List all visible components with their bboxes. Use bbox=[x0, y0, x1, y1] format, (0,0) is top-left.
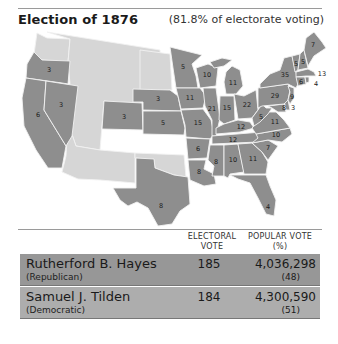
table-top-rule bbox=[18, 229, 322, 230]
ev-label-wisconsin: 10 bbox=[203, 71, 211, 79]
page-title: Election of 1876 bbox=[18, 12, 138, 27]
ev-label-minnesota: 5 bbox=[181, 63, 185, 71]
ev-label-west-virginia: 5 bbox=[259, 113, 263, 121]
ev-label-vermont: 5 bbox=[294, 60, 298, 68]
ev-label-connecticut: 6 bbox=[299, 78, 303, 86]
candidate-party: (Republican) bbox=[26, 272, 83, 283]
popular-vote-pct: (48) bbox=[240, 272, 300, 282]
electoral-vote: 184 bbox=[184, 290, 234, 304]
ev-label-tennessee: 12 bbox=[229, 136, 237, 144]
candidate-name: Samuel J. Tilden bbox=[26, 290, 130, 304]
ev-label-georgia: 11 bbox=[249, 155, 257, 163]
table-row-hayes: Rutherford B. Hayes (Republican) 185 4,0… bbox=[20, 254, 320, 286]
top-rule bbox=[18, 8, 322, 9]
electoral-vote: 185 bbox=[184, 257, 234, 271]
ev-label-missouri: 15 bbox=[194, 119, 202, 127]
ev-label-south-carolina: 7 bbox=[266, 144, 270, 152]
header-popular-line1: POPULAR VOTE bbox=[240, 232, 320, 242]
header-popular-vote: POPULAR VOTE (%) bbox=[240, 232, 320, 252]
popular-vote: 4,036,298 bbox=[240, 257, 316, 271]
ev-label-maine: 7 bbox=[311, 41, 315, 49]
ev-label-north-carolina: 10 bbox=[272, 131, 280, 139]
ev-label-new-york: 35 bbox=[281, 71, 289, 79]
ev-label-delaware: 3 bbox=[291, 104, 295, 112]
ev-label-colorado: 3 bbox=[122, 113, 126, 121]
header-electoral-vote: ELECTORAL VOTE bbox=[182, 232, 242, 252]
state-maine bbox=[304, 32, 326, 66]
ev-label-kentucky: 12 bbox=[237, 123, 245, 131]
territory-dakota bbox=[140, 50, 172, 90]
state-rhode-island bbox=[305, 77, 309, 83]
popular-vote: 4,300,590 bbox=[240, 290, 316, 304]
ev-label-iowa: 11 bbox=[186, 94, 194, 102]
table-row-tilden: Samuel J. Tilden (Democratic) 184 4,300,… bbox=[20, 287, 320, 319]
ev-label-indiana: 15 bbox=[223, 104, 231, 112]
us-electoral-map: 3 6 3 3 3 5 8 5 11 15 6 8 10 21 11 15 22… bbox=[0, 28, 338, 228]
ev-label-illinois: 21 bbox=[208, 105, 216, 113]
header-popular-line2: (%) bbox=[240, 242, 320, 252]
ev-label-florida: 4 bbox=[266, 203, 270, 211]
ev-label-alabama: 10 bbox=[229, 156, 237, 164]
ev-label-massachusetts: 13 bbox=[318, 70, 326, 78]
ev-label-maryland: 8 bbox=[282, 104, 286, 112]
header-electoral-line1: ELECTORAL bbox=[182, 232, 242, 242]
state-new-york bbox=[260, 56, 298, 88]
ev-label-new-jersey: 9 bbox=[290, 93, 294, 101]
ev-label-virginia: 11 bbox=[271, 118, 279, 126]
header-electoral-line2: VOTE bbox=[182, 242, 242, 252]
ev-label-new-hampshire: 5 bbox=[301, 58, 305, 66]
ev-label-ohio: 22 bbox=[243, 101, 251, 109]
ev-label-pennsylvania: 29 bbox=[271, 92, 279, 100]
ev-label-nevada: 3 bbox=[59, 101, 63, 109]
ev-label-california: 6 bbox=[36, 111, 40, 119]
ev-label-michigan: 11 bbox=[229, 79, 237, 87]
popular-vote-pct: (51) bbox=[240, 305, 300, 315]
ev-label-arkansas: 6 bbox=[196, 145, 200, 153]
ev-label-mississippi: 8 bbox=[214, 158, 218, 166]
candidate-name: Rutherford B. Hayes bbox=[26, 257, 157, 271]
ev-label-kansas: 5 bbox=[161, 119, 165, 127]
ev-label-oregon: 3 bbox=[47, 66, 51, 74]
candidate-party: (Democratic) bbox=[26, 305, 85, 316]
ev-label-texas: 8 bbox=[159, 202, 163, 210]
state-michigan-upper bbox=[210, 58, 232, 68]
turnout-subtitle: (81.8% of electorate voting) bbox=[169, 13, 324, 26]
ev-label-rhode-island: 4 bbox=[314, 80, 318, 88]
ev-label-louisiana: 8 bbox=[197, 168, 201, 176]
ev-label-nebraska: 3 bbox=[156, 95, 160, 103]
